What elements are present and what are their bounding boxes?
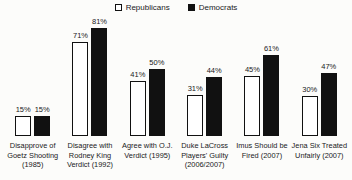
republicans-bar: [72, 42, 88, 136]
bar-group: 31%44%Duke LaCross Players' Guilty (2006…: [176, 66, 233, 180]
republicans-value-label: 41%: [130, 70, 145, 79]
republicans-bar-unit: 45%: [244, 65, 260, 136]
democrats-value-label: 44%: [207, 66, 222, 75]
bar-pair: 30%47%: [302, 62, 337, 136]
democrats-bar: [34, 116, 50, 136]
republicans-bar-unit: 31%: [187, 84, 203, 136]
republicans-bar: [244, 76, 260, 136]
democrats-bar-unit: 47%: [321, 62, 337, 136]
bar-chart: 15%15%Disapprove of Goetz Shooting (1985…: [4, 0, 348, 180]
category-label: Agree with O.J. Verdict (1995): [117, 141, 177, 178]
bar-pair: 15%15%: [15, 105, 50, 136]
democrats-value-label: 81%: [92, 17, 107, 26]
category-label: Disagree with Rodney King Verdict (1992): [60, 141, 120, 178]
republicans-value-label: 45%: [245, 65, 260, 74]
democrats-value-label: 15%: [35, 105, 50, 114]
bar-group: 45%61%Imus Should be Fired (2007): [233, 44, 290, 180]
republicans-bar-unit: 71%: [72, 31, 88, 136]
republicans-bar: [302, 96, 318, 136]
category-label: Jena Six Treated Unfairly (2007): [289, 141, 349, 178]
democrats-value-label: 47%: [321, 62, 336, 71]
democrats-bar-unit: 15%: [34, 105, 50, 136]
category-label: Imus Should be Fired (2007): [232, 141, 292, 178]
democrats-bar: [91, 28, 107, 136]
republicans-value-label: 71%: [73, 31, 88, 40]
republicans-bar-unit: 30%: [302, 85, 318, 136]
republicans-bar: [130, 81, 146, 136]
democrats-bar: [263, 55, 279, 136]
democrats-value-label: 61%: [264, 44, 279, 53]
republicans-bar: [187, 95, 203, 136]
republicans-bar-unit: 15%: [15, 105, 31, 136]
bar-group: 41%50%Agree with O.J. Verdict (1995): [119, 58, 176, 180]
bar-group: 30%47%Jena Six Treated Unfairly (2007): [291, 62, 348, 180]
bar-pair: 31%44%: [187, 66, 222, 136]
democrats-bar: [149, 69, 165, 136]
democrats-value-label: 50%: [149, 58, 164, 67]
republicans-value-label: 15%: [16, 105, 31, 114]
republicans-value-label: 31%: [188, 84, 203, 93]
democrats-bar: [321, 73, 337, 136]
republicans-bar: [15, 116, 31, 136]
democrats-bar-unit: 44%: [206, 66, 222, 136]
republicans-bar-unit: 41%: [130, 70, 146, 136]
bar-group: 71%81%Disagree with Rodney King Verdict …: [61, 17, 118, 180]
category-label: Disapprove of Goetz Shooting (1985): [3, 141, 63, 178]
bar-pair: 41%50%: [130, 58, 165, 136]
bar-pair: 45%61%: [244, 44, 279, 136]
bar-group: 15%15%Disapprove of Goetz Shooting (1985…: [4, 105, 61, 180]
democrats-bar-unit: 50%: [149, 58, 165, 136]
democrats-bar-unit: 81%: [91, 17, 107, 136]
bar-chart-figure: Republicans Democrats 15%15%Disapprove o…: [0, 0, 352, 180]
republicans-value-label: 30%: [302, 85, 317, 94]
bar-pair: 71%81%: [72, 17, 107, 136]
category-label: Duke LaCross Players' Guilty (2006/2007): [175, 141, 235, 178]
democrats-bar: [206, 77, 222, 136]
democrats-bar-unit: 61%: [263, 44, 279, 136]
